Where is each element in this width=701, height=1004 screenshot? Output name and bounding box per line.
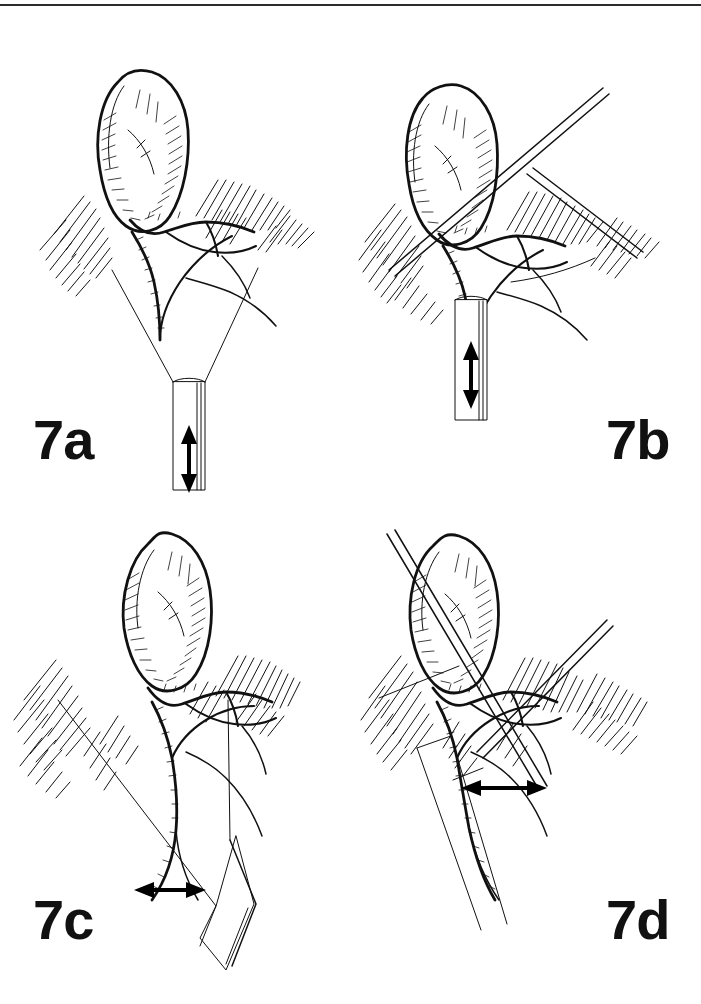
panel-7c: 7c	[0, 500, 350, 980]
panel-7a: 7a	[0, 20, 350, 500]
panel-label-7c: 7c	[33, 892, 93, 948]
gallbladder-7a	[98, 70, 189, 231]
dissector-blades-7d[interactable]	[379, 530, 613, 790]
panel-7b: 7b	[351, 20, 701, 500]
liver-bed-hatching-7d	[361, 656, 647, 776]
instrument-grasper-7d[interactable]	[417, 736, 507, 930]
instrument-grasper-7a[interactable]	[112, 268, 258, 490]
cystic-artery-and-duct-7d	[433, 684, 561, 900]
gallbladder-7d	[410, 535, 498, 693]
dissector-blades-7b[interactable]	[389, 88, 643, 282]
top-horizontal-rule	[0, 4, 701, 6]
panel-label-7b: 7b	[606, 412, 669, 468]
liver-bed-hatching-7c	[14, 656, 300, 798]
panel-label-7a: 7a	[33, 412, 93, 468]
panel-7d: 7d	[351, 500, 701, 980]
panel-label-7d: 7d	[606, 892, 669, 948]
figure-root: 7a	[0, 0, 701, 1004]
gallbladder-7b	[406, 85, 497, 245]
gallbladder-7c	[123, 533, 211, 691]
cystic-artery-and-duct-7c	[148, 684, 276, 900]
